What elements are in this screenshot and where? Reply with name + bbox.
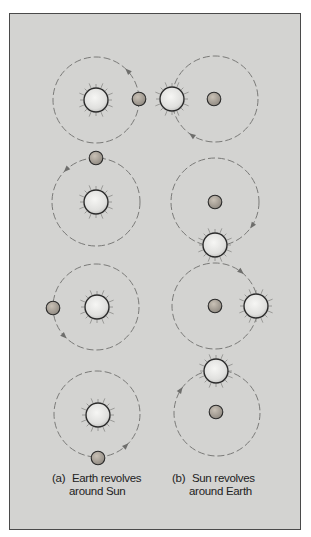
direction-arrow-icon	[250, 222, 256, 229]
direction-arrow-icon	[60, 332, 66, 338]
panel-b-2	[171, 158, 259, 262]
caption-a-line1: Earth revolves	[72, 472, 141, 484]
direction-arrow-icon	[237, 268, 244, 274]
earth-icon	[91, 451, 105, 465]
sun-icon	[79, 83, 112, 116]
sun-icon	[199, 354, 232, 387]
caption-b-line2: around Earth	[172, 485, 255, 498]
panel-b-3	[172, 263, 273, 349]
sun-icon	[80, 290, 113, 323]
sun-icon	[239, 289, 272, 322]
panel-b-1	[155, 56, 258, 142]
direction-arrow-icon	[189, 133, 196, 139]
orbit-diagram	[0, 0, 311, 537]
sun-icon	[81, 398, 114, 431]
panel-b-4	[174, 354, 260, 456]
sun-icon	[155, 82, 188, 115]
sun-icon	[79, 185, 112, 218]
panel-a-1	[53, 57, 146, 143]
direction-arrow-icon	[64, 166, 70, 172]
earth-icon	[46, 301, 60, 315]
caption-b-label: (b)	[172, 472, 189, 485]
caption-b: (b) Sun revolves around Earth	[172, 472, 255, 498]
panel-a-2	[52, 151, 140, 246]
panel-a-4	[54, 371, 140, 465]
earth-icon	[132, 92, 146, 106]
caption-a-line2: around Sun	[52, 485, 141, 498]
earth-icon	[89, 151, 103, 165]
caption-a: (a) Earth revolves around Sun	[52, 472, 141, 498]
direction-arrow-icon	[177, 387, 183, 394]
earth-icon	[207, 92, 221, 106]
earth-icon	[208, 195, 222, 209]
sun-icon	[198, 228, 231, 261]
direction-arrow-icon	[122, 443, 128, 449]
caption-b-line1: Sun revolves	[192, 472, 255, 484]
panel-a-3	[46, 264, 139, 350]
caption-a-label: (a)	[52, 472, 69, 485]
earth-icon	[208, 299, 222, 313]
earth-icon	[209, 405, 223, 419]
